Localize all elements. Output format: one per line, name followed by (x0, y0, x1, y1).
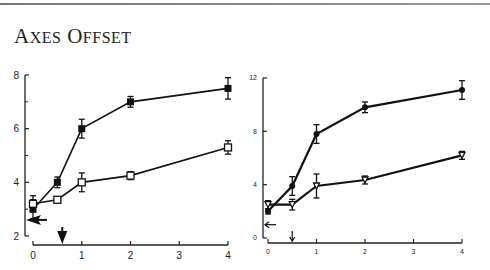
x-tick-label: 3 (176, 250, 182, 261)
data-point (78, 179, 85, 186)
charts-canvas: 2468012340481201234 (0, 0, 490, 270)
x-tick-label: 0 (30, 250, 36, 261)
x-tick-label: 3 (412, 248, 416, 255)
data-point (362, 177, 368, 183)
y-tick-label: 8 (253, 128, 257, 135)
data-point (362, 104, 368, 110)
y-tick-label: 4 (13, 177, 19, 188)
x-tick-label: 4 (225, 250, 231, 261)
x-tick-label: 1 (79, 250, 85, 261)
x-tick-label: 2 (363, 248, 367, 255)
data-point (30, 200, 37, 207)
y-tick-label: 8 (13, 70, 19, 81)
y-tick-label: 4 (253, 181, 257, 188)
x-tick-label: 1 (315, 248, 319, 255)
data-point (459, 152, 465, 158)
data-point (314, 131, 320, 137)
data-point (265, 202, 271, 208)
data-point (54, 179, 61, 186)
data-point (78, 125, 85, 132)
data-point (127, 98, 134, 105)
y-axis: 2468 (13, 70, 29, 242)
data-point (459, 87, 465, 93)
y-axis: 04812 (249, 74, 267, 241)
data-point (289, 183, 295, 189)
data-point (225, 144, 232, 151)
y-tick-label: 0 (253, 234, 257, 241)
x-tick-label: 2 (128, 250, 134, 261)
data-point (127, 172, 134, 179)
x-tick-label: 4 (460, 248, 464, 255)
x-axis: 01234 (266, 239, 464, 255)
arrow-down-icon (57, 231, 67, 244)
series-circle-filled (265, 81, 465, 215)
data-point (289, 202, 295, 208)
data-point (225, 85, 232, 92)
right-chart: 0481201234 (249, 74, 465, 255)
data-point (54, 196, 61, 203)
x-tick-label: 0 (266, 248, 270, 255)
y-tick-label: 12 (249, 74, 257, 81)
x-axis: 01234 (30, 241, 231, 261)
left-chart: 246801234 (13, 70, 231, 262)
y-tick-label: 6 (13, 123, 19, 134)
y-tick-label: 2 (13, 231, 19, 242)
